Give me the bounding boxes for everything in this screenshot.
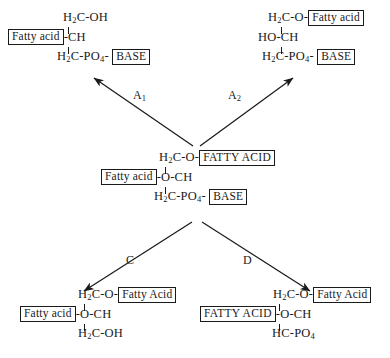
top-left-row2-chem: -CH: [64, 30, 86, 45]
center-fatty-acid-box-2[interactable]: Fatty acid: [101, 169, 157, 185]
bottom-left-bond-1: [84, 304, 85, 311]
center-row1: H2C-O-FATTY ACID: [94, 148, 275, 167]
top-left-fatty-acid-box[interactable]: Fatty acid: [8, 29, 64, 45]
bottom-right-bond-1: [279, 304, 280, 311]
bottom-right-row3: HC-PO4: [200, 324, 371, 343]
bottom-left-row2: Fatty acid-O-CH: [14, 304, 176, 324]
bottom-right-row1-chem: H2C-O-: [273, 287, 313, 302]
top-left-row3-chem: H2C-PO4-: [57, 49, 109, 64]
structure-bottom-left: H2C-O-Fatty Acid Fatty acid-O-CH H2C-OH: [14, 285, 176, 343]
bottom-right-fatty-acid-box-2[interactable]: FATTY ACID: [200, 306, 276, 322]
structure-bottom-right: H2C-O-Fatty Acid FATTY ACID-O-CH HC-PO4: [200, 285, 371, 343]
bottom-right-row1: H2C-O-Fatty Acid: [200, 285, 371, 304]
arrow-d: [202, 222, 310, 291]
arrow-label-c: C: [126, 253, 134, 268]
bottom-left-bond-2: [84, 324, 85, 331]
bottom-left-row1-chem: H2C-O-: [78, 287, 118, 302]
bottom-left-fatty-acid-box[interactable]: Fatty Acid: [118, 287, 176, 303]
top-left-row3: H2C-PO4- BASE: [8, 47, 150, 66]
arrow-label-a2: A2: [228, 88, 241, 103]
top-left-bond-1: [68, 27, 69, 34]
top-left-row1-chem: H2C-OH: [63, 10, 108, 25]
top-right-fatty-acid-box[interactable]: Fatty acid: [308, 10, 364, 26]
top-left-row2: Fatty acid-CH: [8, 27, 150, 47]
top-right-base-box[interactable]: BASE: [317, 49, 355, 65]
bottom-right-fatty-acid-box[interactable]: Fatty Acid: [313, 287, 371, 303]
center-row3: H2C-PO4- BASE: [94, 187, 275, 206]
top-right-bond-2: [281, 47, 282, 54]
structure-center: H2C-O-FATTY ACID Fatty acid-O-CH H2C-PO4…: [94, 148, 275, 206]
center-row3-chem: H2C-PO4-: [154, 189, 206, 204]
center-row1-chem: H2C-O-: [159, 150, 199, 165]
top-right-row3-chem: H2C-PO4-: [262, 49, 314, 64]
arrow-a2: [200, 78, 293, 146]
center-bond-2: [165, 187, 166, 194]
structure-top-left: H2C-OH Fatty acid-CH H2C-PO4- BASE: [8, 8, 150, 66]
top-left-bond-2: [68, 47, 69, 54]
top-left-base-box[interactable]: BASE: [112, 49, 150, 65]
bottom-right-row2-chem: -O-CH: [276, 307, 312, 322]
top-right-row2-chem: HO-CH: [258, 30, 299, 45]
center-bond-1: [165, 167, 166, 174]
top-right-row3: H2C-PO4- BASE: [238, 47, 364, 66]
top-right-bond-1: [281, 27, 282, 34]
bottom-left-fatty-acid-box-2[interactable]: Fatty acid: [20, 306, 76, 322]
bottom-left-row1: H2C-O-Fatty Acid: [14, 285, 176, 304]
arrow-label-d: D: [243, 253, 252, 268]
center-row2: Fatty acid-O-CH: [94, 167, 275, 187]
top-left-row1: H2C-OH: [8, 8, 150, 27]
phospholipid-cleavage-diagram: A1 A2 C D H2C-OH Fatty acid-CH H2C-PO4- …: [0, 0, 390, 358]
center-row2-chem: -O-CH: [157, 170, 193, 185]
top-right-row2: HO-CH: [238, 27, 364, 47]
structure-top-right: H2C-O-Fatty acid HO-CH H2C-PO4- BASE: [238, 8, 364, 66]
bottom-left-row2-chem: -O-CH: [76, 307, 112, 322]
top-right-row1: H2C-O-Fatty acid: [238, 8, 364, 27]
bottom-right-row2: FATTY ACID-O-CH: [200, 304, 371, 324]
center-base-box[interactable]: BASE: [209, 189, 247, 205]
top-right-row1-chem: H2C-O-: [268, 10, 308, 25]
arrow-label-a1: A1: [133, 88, 146, 103]
bottom-right-bond-2: [279, 324, 280, 331]
center-fatty-acid-box[interactable]: FATTY ACID: [199, 150, 275, 166]
bottom-left-row3: H2C-OH: [14, 324, 176, 343]
arrow-c: [84, 222, 192, 291]
